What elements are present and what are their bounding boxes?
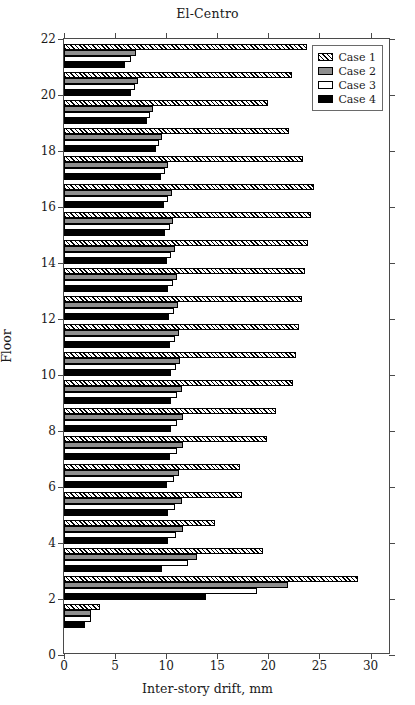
y-tick-label: 20 [41, 88, 56, 102]
y-tick-right [389, 319, 395, 320]
y-tick-right [389, 95, 395, 96]
y-tick-right [389, 487, 395, 488]
y-tick-label: 12 [41, 312, 56, 326]
bar [64, 426, 171, 432]
x-tick-label: 0 [60, 659, 68, 673]
bar-groups [64, 39, 389, 653]
legend-swatch-4 [318, 95, 333, 103]
x-tick-top [115, 33, 116, 39]
x-tick-label: 15 [210, 659, 225, 673]
bar [64, 62, 125, 68]
bar [64, 118, 147, 124]
plot-area: 0246810121416182022 051015202530 Case 1C… [63, 38, 390, 654]
y-tick-right [389, 431, 395, 432]
x-tick-label: 5 [111, 659, 119, 673]
bar [64, 146, 156, 152]
legend-label: Case 4 [338, 93, 376, 106]
chart-figure: El-Centro Floor Inter-story drift, mm 02… [0, 0, 415, 705]
legend-label: Case 1 [338, 51, 376, 64]
x-tick-top [166, 33, 167, 39]
y-tick-right [389, 263, 395, 264]
y-tick-right [389, 151, 395, 152]
y-tick-right [389, 655, 395, 656]
bar [64, 594, 206, 600]
x-tick-label: 10 [159, 659, 174, 673]
bar [64, 342, 170, 348]
y-tick-label: 14 [41, 256, 56, 270]
y-tick [58, 431, 64, 432]
y-tick [58, 375, 64, 376]
legend-swatch-2 [318, 67, 333, 75]
y-tick-right [389, 375, 395, 376]
x-tick-label: 20 [261, 659, 276, 673]
y-tick-label: 0 [48, 648, 56, 662]
y-tick [58, 263, 64, 264]
legend-item: Case 3 [318, 78, 376, 92]
y-tick-label: 18 [41, 144, 56, 158]
bar [64, 510, 168, 516]
legend-label: Case 2 [338, 65, 376, 78]
y-tick [58, 95, 64, 96]
bar [64, 286, 168, 292]
y-tick-right [389, 599, 395, 600]
bar [64, 538, 168, 544]
y-tick-label: 8 [48, 424, 56, 438]
y-tick-right [389, 543, 395, 544]
legend-swatch-1 [318, 53, 333, 61]
legend: Case 1Case 2Case 3Case 4 [312, 45, 383, 111]
y-tick-right [389, 207, 395, 208]
y-tick-label: 4 [48, 536, 56, 550]
legend-swatch-3 [318, 81, 333, 89]
bar [64, 174, 161, 180]
bar [64, 230, 165, 236]
bar [64, 454, 170, 460]
legend-item: Case 2 [318, 64, 376, 78]
x-tick-top [64, 33, 65, 39]
y-tick [58, 207, 64, 208]
y-tick [58, 599, 64, 600]
bar [64, 370, 171, 376]
chart-title: El-Centro [0, 6, 415, 21]
legend-item: Case 1 [318, 50, 376, 64]
bar [64, 482, 167, 488]
x-tick-label: 30 [363, 659, 378, 673]
x-tick-top [217, 33, 218, 39]
y-tick [58, 543, 64, 544]
y-tick [58, 319, 64, 320]
bar [64, 566, 162, 572]
legend-label: Case 3 [338, 79, 376, 92]
x-tick-label: 25 [312, 659, 327, 673]
y-tick-label: 6 [48, 480, 56, 494]
y-tick-label: 16 [41, 200, 56, 214]
bar [64, 398, 171, 404]
x-tick-top [268, 33, 269, 39]
bar [64, 314, 169, 320]
y-tick-right [389, 39, 395, 40]
bar [64, 622, 85, 628]
y-tick [58, 151, 64, 152]
y-tick [58, 487, 64, 488]
legend-item: Case 4 [318, 92, 376, 106]
y-tick-label: 2 [48, 592, 56, 606]
x-axis-label: Inter-story drift, mm [0, 681, 415, 696]
y-tick-label: 10 [41, 368, 56, 382]
y-axis-label: Floor [0, 329, 14, 363]
bar [64, 202, 164, 208]
y-tick [58, 39, 64, 40]
bar [64, 90, 131, 96]
x-tick-top [319, 33, 320, 39]
y-tick-label: 22 [41, 32, 56, 46]
bar [64, 258, 167, 264]
x-tick-top [371, 33, 372, 39]
